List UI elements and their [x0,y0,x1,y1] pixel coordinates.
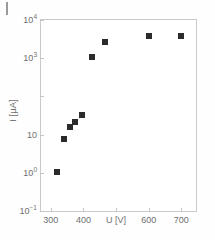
x-axis-tick-label: 300 [43,215,58,225]
y-axis-title: I [µA] [7,85,18,137]
y-axis-tick-label: 10−1 [3,206,37,216]
plot-data-area [41,20,196,211]
data-point-marker [79,112,85,118]
y-axis-tick-label: 100 [3,168,37,178]
y-axis-tick-label: 103 [3,53,37,63]
scan-artifact-mark [6,2,8,15]
data-point-marker [89,54,95,60]
data-point-marker [102,39,108,45]
data-point-marker [72,119,78,125]
data-point-marker [146,33,152,39]
x-axis-title: U [V] [106,215,126,225]
x-axis-tick-label: 700 [174,215,189,225]
data-point-marker [61,136,67,142]
y-axis-tick-mark [40,211,44,212]
data-point-marker [54,169,60,175]
data-point-marker [178,33,184,39]
x-axis-tick-label: 400 [76,215,91,225]
x-axis-tick-label: 600 [141,215,156,225]
y-axis-tick-label: 104 [3,15,37,25]
chart-figure: 1041031010010−1 300400U [V]600700 I [µA] [0,0,215,240]
